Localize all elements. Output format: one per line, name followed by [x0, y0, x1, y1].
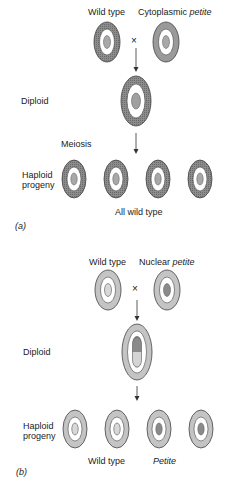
cell-nuclear-petite-parent [154, 270, 180, 310]
label-petite-italic-a: petite [190, 7, 212, 17]
label-cytoplasmic-prefix: Cytoplasmic [138, 7, 190, 17]
label-haploid-progeny-b: Haploidprogeny [23, 421, 56, 441]
panel-tag-a: (a) [15, 221, 26, 231]
cross-symbol-b: × [132, 284, 138, 294]
haploid-progeny-a [62, 160, 212, 198]
cell-cytoplasmic-petite-parent [153, 22, 179, 62]
label-nuclear-prefix: Nuclear [139, 257, 173, 267]
haploid-progeny-b [63, 410, 213, 448]
label-meiosis: Meiosis [61, 139, 92, 149]
panel-tag-b: (b) [16, 467, 27, 477]
label-diploid-b: Diploid [23, 347, 51, 357]
label-haploid-a-line2: progeny [22, 180, 55, 190]
label-haploid-b-line2: progeny [23, 431, 56, 441]
label-petite-italic-b: petite [173, 257, 195, 267]
label-nuclear-petite: Nuclear petite [139, 257, 195, 267]
cross-symbol-a: × [131, 36, 137, 46]
cell-wild-type-parent-b [95, 270, 121, 310]
label-all-wild-type: All wild type [115, 207, 163, 217]
label-progeny-wild-type: Wild type [88, 456, 125, 466]
diagram-graphics [0, 0, 230, 487]
label-wild-type-b: Wild type [89, 257, 126, 267]
label-wild-type-a: Wild type [88, 7, 125, 17]
label-haploid-progeny-a: Haploidprogeny [22, 170, 55, 190]
label-cytoplasmic-petite: Cytoplasmic petite [138, 7, 212, 17]
label-haploid-b-line1: Haploid [23, 421, 56, 431]
cell-diploid-a [121, 76, 151, 126]
label-progeny-petite: Petite [153, 456, 176, 466]
cell-wild-type-parent-a [94, 22, 120, 62]
cell-diploid-b [122, 324, 152, 380]
label-haploid-a-line1: Haploid [22, 170, 55, 180]
label-diploid-a: Diploid [21, 96, 49, 106]
